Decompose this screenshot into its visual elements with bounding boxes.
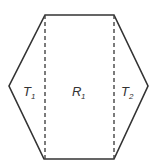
- hexagon-diagram: T 1 R 1 T 2: [0, 0, 154, 167]
- svg-text:R: R: [72, 84, 81, 99]
- label-r1: R 1: [72, 84, 85, 101]
- svg-text:1: 1: [31, 92, 35, 101]
- label-t1: T 1: [23, 84, 35, 101]
- svg-text:1: 1: [81, 92, 85, 101]
- svg-text:2: 2: [128, 92, 134, 101]
- label-t2: T 2: [121, 84, 134, 101]
